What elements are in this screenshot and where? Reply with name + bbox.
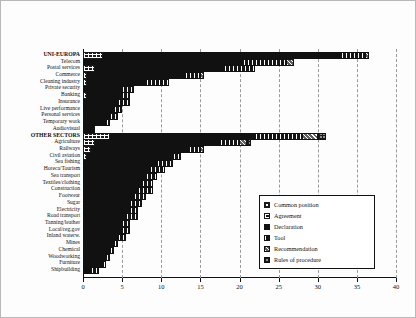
- chart-frame: 0510152025303540 UNI-EUROPATelecomPostal…: [0, 0, 416, 318]
- x-tick: [357, 278, 358, 282]
- x-tick-label: 35: [354, 283, 361, 290]
- legend-item: Agreement: [264, 210, 370, 221]
- x-tick-label: 10: [158, 283, 165, 290]
- legend-item: Rules of procedure: [264, 254, 370, 265]
- legend-label: Common position: [274, 199, 319, 210]
- bar-segment: [91, 267, 99, 274]
- x-tick: [240, 278, 241, 282]
- legend-swatch-icon: [264, 202, 270, 208]
- legend-item: Tool: [264, 232, 370, 243]
- x-tick-label: 5: [121, 283, 124, 290]
- x-tick: [83, 278, 84, 282]
- x-tick-label: 40: [393, 283, 400, 290]
- bar-segment: [83, 267, 91, 274]
- legend-item: Recommendation: [264, 243, 370, 254]
- legend-swatch-icon: [264, 246, 270, 252]
- x-tick-label: 25: [275, 283, 282, 290]
- gridline: [396, 49, 397, 278]
- x-tick: [318, 278, 319, 282]
- x-tick: [200, 278, 201, 282]
- legend-item: Declaration: [264, 221, 370, 232]
- legend-label: Tool: [274, 232, 285, 243]
- x-tick-label: 15: [197, 283, 204, 290]
- legend-label: Agreement: [274, 210, 302, 221]
- x-tick: [396, 278, 397, 282]
- legend-label: Rules of procedure: [274, 254, 321, 265]
- x-tick-label: 20: [236, 283, 243, 290]
- category-label: Shipbuilding: [51, 266, 80, 273]
- x-tick: [161, 278, 162, 282]
- legend-label: Declaration: [274, 221, 303, 232]
- x-tick: [279, 278, 280, 282]
- x-tick: [122, 278, 123, 282]
- x-tick-label: 0: [81, 283, 84, 290]
- legend-swatch-icon: [264, 224, 270, 230]
- legend-item: Common position: [264, 199, 370, 210]
- legend-swatch-icon: [264, 213, 270, 219]
- x-tick-label: 30: [315, 283, 322, 290]
- legend-swatch-icon: [264, 257, 270, 263]
- legend-swatch-icon: [264, 235, 270, 241]
- legend-label: Recommendation: [274, 243, 318, 254]
- chart-legend: Common positionAgreementDeclarationToolR…: [259, 195, 375, 269]
